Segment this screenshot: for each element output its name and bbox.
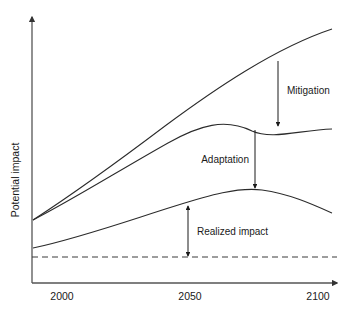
chart-container: Potential impact 2000 2050 2100 Mitigati… — [0, 0, 350, 321]
potential-impact-line-chart: Potential impact 2000 2050 2100 Mitigati… — [0, 0, 350, 321]
series-line-potential-impact-with-mitigation — [33, 124, 332, 220]
y-axis-title: Potential impact — [9, 143, 21, 218]
adaptation-label: Adaptation — [201, 154, 249, 165]
series-line-potential-impact-no-action — [33, 29, 332, 220]
x-tick-label-2100: 2100 — [306, 290, 330, 302]
x-tick-label-2050: 2050 — [178, 290, 202, 302]
series-line-realized-impact — [33, 189, 332, 248]
mitigation-label: Mitigation — [287, 85, 330, 96]
realized-impact-label: Realized impact — [197, 226, 268, 237]
x-tick-label-2000: 2000 — [50, 290, 74, 302]
